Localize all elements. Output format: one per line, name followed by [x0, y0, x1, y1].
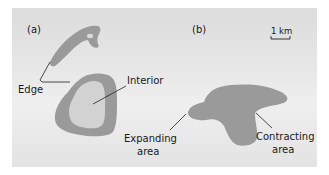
scale-label: 1 km — [271, 26, 292, 36]
contracting-label-line2: area — [272, 144, 294, 155]
expanding-label-line1: Expanding — [124, 133, 177, 144]
edge-shape-a-top — [50, 26, 101, 67]
contracting-leader-line — [256, 113, 272, 128]
scale-bar — [271, 36, 290, 39]
panel-b-label: (b) — [192, 24, 206, 35]
edge-shape-a-hole — [87, 34, 93, 38]
contracting-label-line1: Contracting — [256, 131, 314, 142]
panel-a-label: (a) — [27, 24, 41, 35]
diagram-canvas: (a) Edge Interior (b) 1 km Expanding are… — [0, 0, 329, 175]
expanding-label-line2: area — [137, 146, 159, 157]
expanding-leader-line — [170, 114, 186, 130]
interior-label: Interior — [127, 75, 164, 86]
edge-label: Edge — [18, 84, 43, 95]
